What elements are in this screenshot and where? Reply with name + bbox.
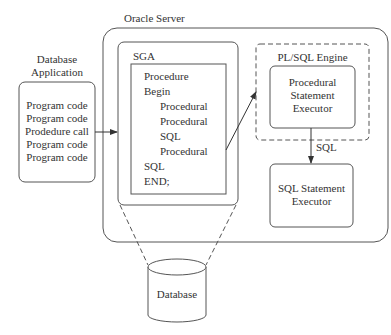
app-code-line: Program code — [19, 151, 95, 164]
oracle-server-title: Oracle Server — [124, 12, 185, 25]
sga-code-line: Procedural — [144, 99, 208, 114]
database-application-label-line2: Application — [17, 66, 97, 79]
sga-code-line: SQL — [144, 129, 208, 144]
funnel-left-line — [120, 205, 148, 265]
procedural-executor-line: Executor — [270, 102, 355, 115]
sga-code-line: Procedural — [144, 114, 208, 129]
sga-code-line: Begin — [144, 84, 208, 99]
app-code-line: Program code — [19, 138, 95, 151]
funnel-right-line — [206, 205, 236, 265]
sga-code-line: END; — [144, 174, 208, 189]
app-code-line: Program code — [19, 99, 95, 112]
sql-executor-line: Executor — [270, 195, 353, 208]
database-application-label-line1: Database — [17, 53, 97, 66]
sql-executor-line: SQL Statement — [270, 182, 353, 195]
sga-code-block: Procedure Begin Procedural Procedural SQ… — [144, 69, 208, 189]
sql-executor-text: SQL Statement Executor — [270, 182, 353, 208]
plsql-engine-label: PL/SQL Engine — [256, 51, 369, 64]
database-application-label: Database Application — [17, 53, 97, 79]
database-application-code: Program code Program code Prodedure call… — [19, 99, 95, 164]
app-code-line: Prodedure call — [19, 125, 95, 138]
sga-code-line: Procedural — [144, 144, 208, 159]
database-label: Database — [148, 288, 206, 301]
sga-code-line: Procedure — [144, 69, 208, 84]
procedural-executor-line: Procedural — [270, 76, 355, 89]
sga-label: SGA — [133, 50, 155, 63]
sql-arrow-label: SQL — [316, 141, 337, 154]
sga-code-line: SQL — [144, 159, 208, 174]
app-code-line: Program code — [19, 112, 95, 125]
procedural-executor-line: Statement — [270, 89, 355, 102]
sga-to-plsql-arrow — [226, 92, 256, 150]
procedural-executor-text: Procedural Statement Executor — [270, 76, 355, 115]
